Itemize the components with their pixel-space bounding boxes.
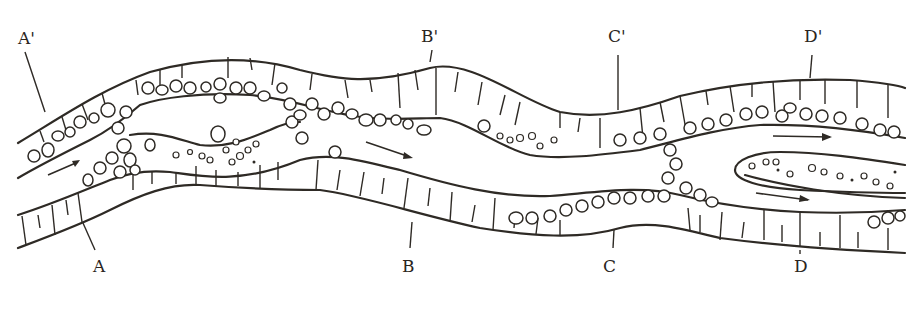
mid-channel-bar (735, 152, 905, 193)
section-label-d-prime: D' (804, 28, 822, 45)
river-channel-diagram: A' A B' B C' C D' D (0, 0, 911, 313)
section-label-c: C (603, 258, 616, 275)
bottom-bank-ticks (22, 160, 888, 250)
section-label-b: B (402, 258, 415, 275)
section-label-a-prime: A' (18, 30, 35, 47)
section-label-a: A (93, 258, 105, 275)
flow-arrows (48, 133, 832, 202)
inner-bank-bottom (18, 157, 905, 215)
channel-drawing (0, 0, 911, 313)
inner-bank-top (18, 94, 905, 178)
section-label-d: D (794, 258, 808, 275)
section-leaders (25, 50, 812, 254)
section-label-c-prime: C' (608, 28, 626, 45)
section-label-b-prime: B' (421, 28, 438, 45)
sand-grains (173, 133, 897, 190)
